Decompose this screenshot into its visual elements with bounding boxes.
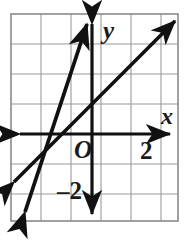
origin-label: O	[74, 137, 92, 162]
coordinate-graph-figure: y x O 2 –2	[0, 0, 188, 243]
x-tick-label-2: 2	[140, 138, 153, 163]
y-tick-label-negative-2: –2	[57, 178, 82, 203]
y-axis-label: y	[103, 18, 114, 43]
x-axis-label: x	[161, 104, 173, 128]
coordinate-plane-svg	[0, 0, 188, 243]
